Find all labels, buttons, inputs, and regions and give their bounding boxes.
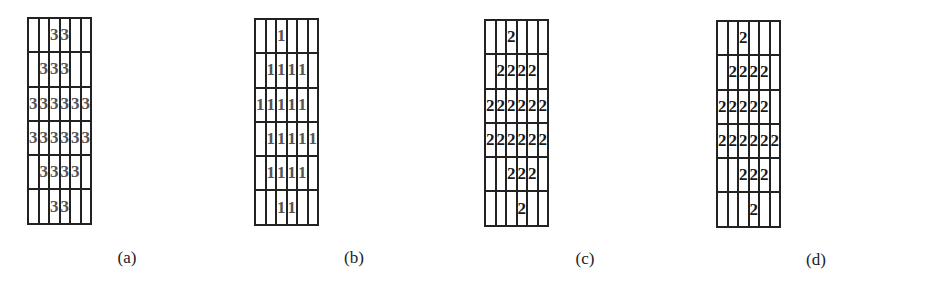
grid-cell: 2 — [759, 124, 770, 158]
grid-cell: 2 — [496, 89, 507, 123]
grid-cell — [506, 191, 517, 225]
grid-c: 222222222222222222222 — [484, 19, 549, 227]
grid-cell: 1 — [287, 122, 298, 156]
grid-cell: 2 — [517, 157, 528, 191]
grid-cell: 3 — [60, 155, 71, 189]
grid-cell — [717, 192, 728, 226]
grid-row: 1111 — [255, 53, 318, 87]
grid-row: 11 — [255, 190, 318, 224]
grid-cell: 3 — [49, 155, 60, 189]
grid-cell: 1 — [276, 122, 287, 156]
grid-cell: 2 — [738, 158, 749, 192]
grid-cell: 3 — [39, 121, 50, 155]
grid-cell — [770, 158, 781, 192]
grid-cell: 1 — [266, 122, 277, 156]
grid-cell: 2 — [749, 124, 760, 158]
grid-cell: 1 — [276, 19, 287, 53]
grid-cell: 3 — [49, 87, 60, 121]
caption-a: (a) — [97, 248, 157, 268]
grid-row: 2 — [485, 20, 548, 54]
grid-cell: 3 — [60, 52, 71, 86]
grid-cell — [717, 158, 728, 192]
grid-cell — [717, 55, 728, 89]
grid-cell — [308, 19, 319, 53]
grid-cell: 1 — [287, 156, 298, 190]
grid-cell: 2 — [717, 90, 728, 124]
grid-cell — [297, 19, 308, 53]
grid-cell — [308, 190, 319, 224]
grid-cell: 2 — [749, 55, 760, 89]
grid-cell: 3 — [49, 121, 60, 155]
grid-cell — [538, 157, 549, 191]
grid-cell — [527, 20, 538, 54]
grid-cell: 2 — [517, 89, 528, 123]
grid-cell — [538, 191, 549, 225]
grid-cell — [496, 191, 507, 225]
grid-cell: 1 — [276, 156, 287, 190]
grid-cell: 1 — [266, 156, 277, 190]
grid-cell: 2 — [728, 90, 739, 124]
grid-cell — [728, 21, 739, 55]
grid-cell — [28, 189, 39, 223]
grid-cell: 2 — [527, 89, 538, 123]
grid-cell — [759, 21, 770, 55]
grid-d: 22222222222222222222 — [716, 20, 781, 228]
grid-row: 33 — [28, 18, 91, 52]
grid-cell: 2 — [738, 90, 749, 124]
grid-cell: 2 — [485, 123, 496, 157]
caption-c: (c) — [555, 249, 615, 269]
grid-cell: 2 — [717, 124, 728, 158]
grid-cell — [770, 21, 781, 55]
grid-cell — [749, 21, 760, 55]
grid-cell — [70, 189, 81, 223]
grid-cell: 3 — [49, 18, 60, 52]
grid-row: 2 — [717, 21, 780, 55]
grid-a: 33333333333333333333333 — [27, 17, 92, 225]
grid-cell: 2 — [738, 55, 749, 89]
grid-row: 222222 — [717, 124, 780, 158]
grid-cell: 3 — [60, 189, 71, 223]
grid-cell — [28, 155, 39, 189]
grid-cell — [287, 19, 298, 53]
grid-row: 11111 — [255, 122, 318, 156]
grid-cell — [28, 18, 39, 52]
grid-row: 11111 — [255, 88, 318, 122]
grid-row: 2222 — [717, 55, 780, 89]
grid-row: 2222 — [485, 54, 548, 88]
grid-cell — [759, 192, 770, 226]
grid-cell: 2 — [506, 89, 517, 123]
grid-cell — [308, 53, 319, 87]
grid-cell — [308, 156, 319, 190]
grid-cell — [255, 190, 266, 224]
grid-cell — [70, 52, 81, 86]
caption-b: (b) — [324, 248, 384, 268]
grid-cell — [527, 191, 538, 225]
grid-cell: 2 — [506, 123, 517, 157]
grid-cell: 2 — [517, 191, 528, 225]
grid-cell: 2 — [527, 54, 538, 88]
grid-row: 222 — [717, 158, 780, 192]
grid-cell: 3 — [60, 121, 71, 155]
grid-row: 33 — [28, 189, 91, 223]
grid-cell: 1 — [297, 122, 308, 156]
grid-cell: 2 — [749, 192, 760, 226]
grid-cell — [297, 190, 308, 224]
grid-cell: 3 — [49, 189, 60, 223]
grid-cell: 1 — [297, 88, 308, 122]
grid-cell: 1 — [266, 53, 277, 87]
grid-cell — [255, 156, 266, 190]
grid-cell: 1 — [287, 88, 298, 122]
grid-row: 2 — [717, 192, 780, 226]
grid-cell: 3 — [70, 121, 81, 155]
grid-row: 333 — [28, 52, 91, 86]
grid-cell: 3 — [39, 87, 50, 121]
grid-cell: 1 — [308, 122, 319, 156]
grid-cell — [255, 19, 266, 53]
grid-cell — [81, 18, 92, 52]
grid-b: 111111111111111111111 — [254, 18, 319, 226]
grid-cell: 1 — [276, 88, 287, 122]
grid-cell: 2 — [496, 123, 507, 157]
grid-cell: 3 — [28, 121, 39, 155]
grid-cell — [485, 157, 496, 191]
grid-cell: 2 — [506, 157, 517, 191]
